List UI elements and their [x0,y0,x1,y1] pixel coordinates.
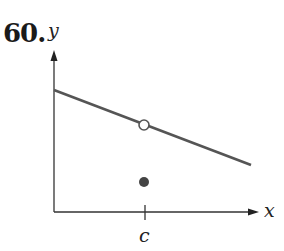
y-axis-arrow-icon [51,50,58,61]
filled-dot-marker [139,177,149,187]
x-axis-arrow-icon [248,209,259,216]
figure: 60. y x c [0,0,284,251]
function-line [54,90,251,165]
plot-area [0,0,284,251]
open-circle-marker [139,120,149,130]
